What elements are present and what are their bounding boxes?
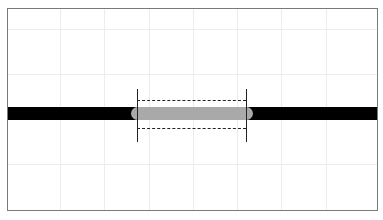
grid-line-horizontal [8,74,377,75]
vertical-marker-left [137,89,138,142]
grid-line-horizontal [8,29,377,30]
diagram-frame [7,8,378,211]
vertical-marker-right [246,89,247,142]
grid-line-horizontal [8,164,377,165]
dashed-line-top [137,100,246,101]
dashed-line-bottom [137,128,246,129]
highlight-segment [131,107,253,120]
